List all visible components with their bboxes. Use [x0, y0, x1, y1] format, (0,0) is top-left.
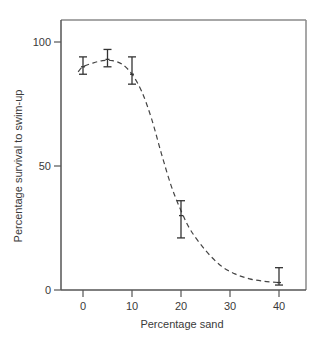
data-point: [128, 57, 136, 84]
y-tick-label: 50: [39, 160, 51, 172]
dashed-fit-line: [78, 60, 279, 282]
x-tick-label: 10: [126, 300, 138, 312]
plot-frame: [61, 20, 306, 290]
x-tick-label: 0: [80, 300, 86, 312]
x-tick-label: 30: [224, 300, 236, 312]
x-axis-label: Percentage sand: [140, 318, 223, 330]
data-points: [79, 49, 283, 285]
y-axis-label: Percentage survival to swim-up: [12, 90, 24, 243]
y-tick-label: 0: [45, 284, 51, 296]
y-tick-label: 100: [33, 36, 51, 48]
x-tick-label: 40: [273, 300, 285, 312]
axis-ticks: 010203040050100: [33, 36, 285, 312]
data-point: [177, 201, 185, 238]
fit-curve: [78, 60, 279, 282]
data-point: [104, 49, 112, 66]
survival-chart: 010203040050100 Percentage sand Percenta…: [0, 0, 320, 346]
x-tick-label: 20: [175, 300, 187, 312]
